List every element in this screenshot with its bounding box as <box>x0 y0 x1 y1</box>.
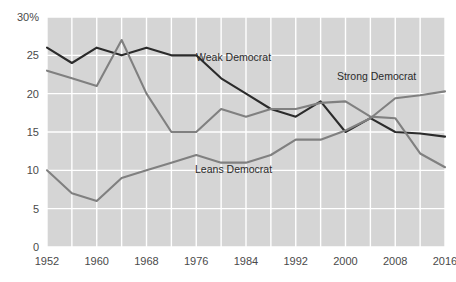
series-label-weak-democrat: Weak Democrat <box>196 51 271 63</box>
y-axis-tick-labels: 30%2520151050 <box>17 11 39 253</box>
x-axis-tick-label: 1976 <box>184 255 208 267</box>
x-axis-tick-label: 1960 <box>85 255 109 267</box>
y-axis-tick-label: 15 <box>27 126 39 138</box>
x-axis-tick-label: 1992 <box>284 255 308 267</box>
x-axis-tick-label: 1984 <box>234 255 258 267</box>
chart-container: 30%2520151050 19521960196819761984199220… <box>0 0 456 282</box>
x-axis-tick-label: 2008 <box>383 255 407 267</box>
x-axis-tick-label: 1952 <box>35 255 59 267</box>
series-label-leans-democrat: Leans Democrat <box>195 163 272 175</box>
x-axis-tick-labels: 195219601968197619841992200020082016 <box>35 255 456 267</box>
x-axis-tick-label: 1968 <box>134 255 158 267</box>
x-axis-tick-label: 2016 <box>433 255 456 267</box>
series-label-strong-democrat: Strong Democrat <box>337 70 416 82</box>
y-axis-tick-label: 0 <box>33 241 39 253</box>
y-axis-tick-label: 5 <box>33 203 39 215</box>
line-chart: 30%2520151050 19521960196819761984199220… <box>0 0 456 282</box>
y-axis-tick-label: 20 <box>27 88 39 100</box>
x-axis-tick-label: 2000 <box>333 255 357 267</box>
y-axis-tick-label: 25 <box>27 49 39 61</box>
y-axis-tick-label: 10 <box>27 164 39 176</box>
y-axis-tick-label: 30% <box>17 11 39 23</box>
